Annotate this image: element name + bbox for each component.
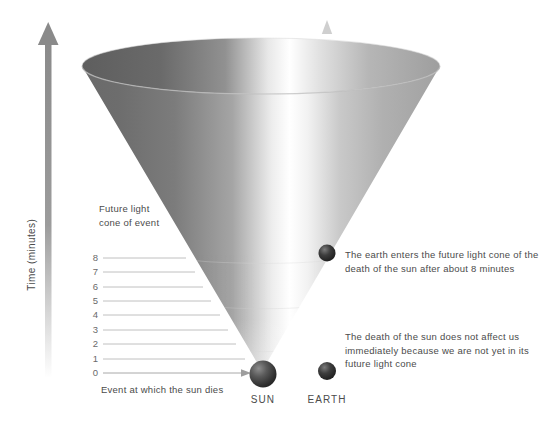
future-light-cone-label: Future light cone of event xyxy=(99,202,177,229)
earth-enters-annotation: The earth enters the future light cone o… xyxy=(345,248,551,275)
time-axis-line xyxy=(45,38,52,378)
earth-label: EARTH xyxy=(292,394,362,405)
event-pointer-arrowhead xyxy=(241,369,251,376)
time-tick-7: 7 xyxy=(86,266,98,277)
time-tick-8: 8 xyxy=(86,252,98,263)
time-tick-2: 2 xyxy=(86,338,98,349)
earth-worldline-arrowhead xyxy=(322,20,332,34)
time-axis-label: Time (minutes) xyxy=(25,195,39,315)
event-pointer-line xyxy=(103,369,251,376)
time-tick-6: 6 xyxy=(86,281,98,292)
time-axis-arrowhead xyxy=(38,22,59,45)
time-tick-5: 5 xyxy=(86,295,98,306)
time-axis xyxy=(38,22,59,378)
earth-sphere-present xyxy=(318,362,336,380)
time-tick-3: 3 xyxy=(86,324,98,335)
light-cone-figure: Time (minutes) Future light cone of even… xyxy=(0,0,560,428)
earth-sphere-future xyxy=(319,245,336,262)
time-tick-0: 0 xyxy=(86,367,98,378)
sun-label: SUN xyxy=(228,394,298,405)
time-tick-1: 1 xyxy=(86,353,98,364)
time-tick-4: 4 xyxy=(86,309,98,320)
no-affect-annotation: The death of the sun does not affect us … xyxy=(345,330,530,371)
